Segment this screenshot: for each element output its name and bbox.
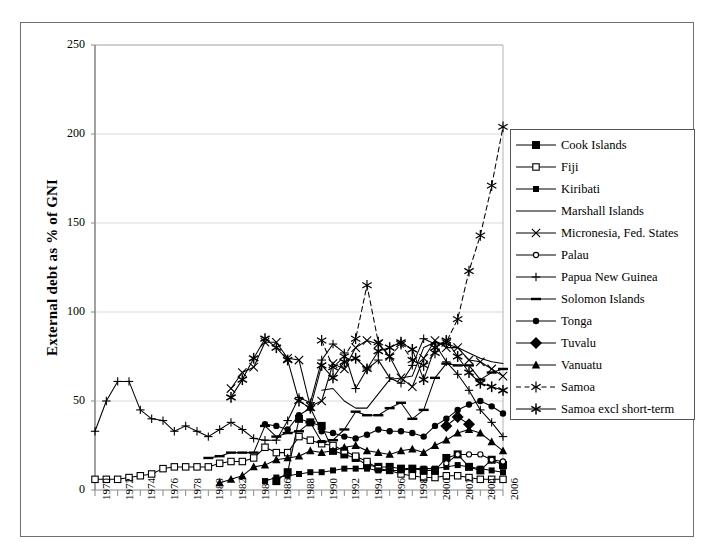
legend-label: Samoa (558, 380, 595, 395)
x-tick-label: 1970 (100, 478, 112, 500)
legend-marker-dash-icon (514, 291, 558, 307)
legend-marker-star6-open-icon (514, 379, 558, 395)
legend-marker-open-circle-sm-icon (514, 247, 558, 263)
series-palau (444, 452, 506, 466)
legend-item-kiribati[interactable]: Kiribati (511, 178, 694, 200)
legend-marker-filled-square-icon (514, 137, 558, 153)
legend-marker-filled-triangle-icon (514, 357, 558, 373)
legend-item-marshall-islands[interactable]: Marshall Islands (511, 200, 694, 222)
legend-item-papua-new-guinea[interactable]: Papua New Guinea (511, 266, 694, 288)
legend: Cook IslandsFijiKiribatiMarshall Islands… (510, 129, 695, 420)
legend-item-tuvalu[interactable]: Tuvalu (511, 332, 694, 354)
legend-label: Tuvalu (558, 336, 596, 351)
y-tick-label: 250 (45, 37, 85, 52)
x-tick-label: 1990 (327, 478, 339, 500)
x-tick-label: 1996 (395, 478, 407, 500)
x-tick-label: 1984 (259, 478, 271, 500)
legend-item-tonga[interactable]: Tonga (511, 310, 694, 332)
legend-marker-plus-icon (514, 269, 558, 285)
x-tick-label: 2004 (485, 478, 497, 500)
legend-label: Tonga (558, 314, 592, 329)
legend-item-fiji[interactable]: Fiji (511, 156, 694, 178)
legend-item-micronesia-fed-states[interactable]: Micronesia, Fed. States (511, 222, 694, 244)
x-tick-label: 1986 (281, 478, 293, 500)
legend-item-palau[interactable]: Palau (511, 244, 694, 266)
legend-marker-x-cross-icon (514, 225, 558, 241)
plot-frame (95, 45, 503, 490)
x-tick-label: 1994 (372, 478, 384, 500)
x-tick-label: 2006 (508, 478, 520, 500)
x-tick-label: 1988 (304, 478, 316, 500)
legend-label: Cook Islands (558, 138, 627, 153)
x-tick-label: 1978 (191, 478, 203, 500)
legend-item-samoa-excl-short-term[interactable]: Samoa excl short-term (511, 398, 694, 420)
y-tick-label: 100 (45, 304, 85, 319)
legend-item-samoa[interactable]: Samoa (511, 376, 694, 398)
x-tick-label: 1972 (123, 478, 135, 500)
legend-label: Papua New Guinea (558, 270, 658, 285)
x-tick-label: 1982 (236, 478, 248, 500)
x-tick-label: 1974 (145, 478, 157, 500)
legend-label: Marshall Islands (558, 204, 644, 219)
legend-label: Solomon Islands (558, 292, 645, 307)
legend-marker-filled-diamond-icon (514, 335, 558, 351)
legend-label: Kiribati (558, 182, 600, 197)
legend-item-cook-islands[interactable]: Cook Islands (511, 134, 694, 156)
y-tick-label: 0 (45, 482, 85, 497)
legend-marker-filled-circle-icon (514, 313, 558, 329)
series-samoa (317, 121, 508, 372)
gridlines (95, 45, 503, 401)
x-tick-label: 1980 (213, 478, 225, 500)
legend-marker-open-square-icon (514, 159, 558, 175)
legend-label: Vanuatu (558, 358, 602, 373)
x-tick-label: 1992 (349, 478, 361, 500)
x-tick-label: 1998 (417, 478, 429, 500)
x-tick-label: 2000 (440, 478, 452, 500)
legend-item-solomon-islands[interactable]: Solomon Islands (511, 288, 694, 310)
legend-label: Fiji (558, 160, 578, 175)
legend-label: Samoa excl short-term (558, 402, 674, 417)
legend-label: Palau (558, 248, 589, 263)
chart-figure: External debt as % of GNI 05010015020025… (0, 0, 711, 555)
legend-marker-none-icon (514, 203, 558, 219)
x-tick-label: 2002 (463, 478, 475, 500)
legend-item-vanuatu[interactable]: Vanuatu (511, 354, 694, 376)
x-tick-label: 1976 (168, 478, 180, 500)
y-tick-label: 150 (45, 215, 85, 230)
legend-marker-filled-square-sm-icon (514, 181, 558, 197)
legend-label: Micronesia, Fed. States (558, 226, 678, 241)
y-tick-label: 200 (45, 126, 85, 141)
data-series-layer (91, 121, 508, 486)
legend-marker-star6-bold-icon (514, 401, 558, 417)
y-tick-label: 50 (45, 393, 85, 408)
